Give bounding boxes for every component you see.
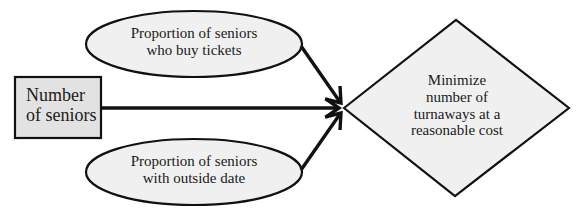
objective-line1: Minimize (395, 72, 519, 89)
objective-line2: number of (395, 89, 519, 106)
decision-node-line2: of seniors (26, 106, 97, 126)
uncertainty-node-top-label: Proportion of seniors who buy tickets (114, 25, 274, 59)
uncertainty-node-bottom-line2: with outside date (114, 170, 274, 187)
objective-line4: reasonable cost (395, 122, 519, 139)
uncertainty-node-top-line1: Proportion of seniors (114, 25, 274, 42)
influence-diagram: Number of seniors Proportion of seniors … (0, 0, 584, 212)
uncertainty-node-top-line2: who buy tickets (114, 42, 274, 59)
uncertainty-node-bottom-label: Proportion of seniors with outside date (114, 153, 274, 187)
decision-node-label: Number of seniors (26, 86, 97, 126)
arrow-bottom-to-objective (301, 114, 340, 170)
objective-node-label: Minimize number of turnaways at a reason… (395, 72, 519, 139)
uncertainty-node-bottom-line1: Proportion of seniors (114, 153, 274, 170)
arrow-top-to-objective (301, 46, 340, 102)
objective-line3: turnaways at a (395, 106, 519, 123)
decision-node-line1: Number (26, 86, 97, 106)
